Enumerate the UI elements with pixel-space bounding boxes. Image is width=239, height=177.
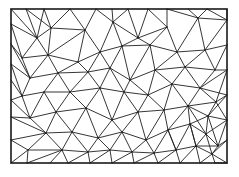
mesh-edge [177, 50, 205, 52]
mesh-edge [100, 52, 110, 68]
mesh-edge [11, 64, 22, 96]
mesh-edge [70, 9, 85, 30]
mesh-edge [44, 92, 56, 112]
mesh-edge [206, 116, 208, 134]
mesh-edge [22, 78, 30, 96]
mesh-edge [168, 124, 190, 130]
mesh-edge [56, 112, 72, 132]
mesh-edge [155, 67, 185, 70]
mesh-edge [196, 146, 200, 163]
mesh-edge [28, 133, 46, 150]
mesh-edge [113, 22, 138, 38]
mesh-edge [138, 95, 148, 112]
mesh-edge [150, 45, 155, 70]
mesh-edge [27, 150, 28, 163]
mesh-edge [98, 138, 110, 150]
mesh-edge [11, 133, 46, 140]
mesh-edge [176, 124, 190, 150]
mesh-edge [176, 150, 180, 163]
mesh-edge [150, 27, 167, 45]
mesh-edge [146, 140, 154, 153]
mesh-edge [46, 112, 56, 133]
mesh-edge [148, 70, 155, 95]
mesh-edge [200, 70, 227, 88]
mesh-edge [124, 80, 130, 92]
mesh-edge [112, 9, 113, 22]
mesh-edge [132, 140, 146, 152]
mesh-edge [122, 46, 130, 80]
mesh-edge [130, 45, 150, 80]
mesh-edge [155, 70, 172, 84]
mesh-edge [110, 68, 124, 92]
mesh-edge [11, 117, 46, 133]
mesh-edge [132, 152, 154, 153]
mesh-edge [100, 68, 110, 88]
mesh-edge [96, 9, 113, 22]
mesh-edge [22, 55, 48, 58]
mesh-edge [112, 92, 124, 120]
mesh-edge [58, 72, 88, 73]
mesh-edge [62, 150, 88, 152]
mesh-edge [172, 84, 200, 88]
mesh-edge [88, 72, 100, 88]
mesh-edge [132, 152, 134, 163]
mesh-edge [130, 70, 155, 80]
mesh-edge [112, 152, 132, 163]
mesh-edge [200, 154, 212, 163]
mesh-edge [100, 46, 122, 52]
mesh-edge [188, 88, 200, 106]
triangulated-mesh-diagram [0, 0, 239, 177]
mesh-edge [58, 73, 70, 92]
mesh-edge [167, 27, 177, 52]
mesh-edge [30, 55, 48, 78]
mesh-edge [85, 30, 100, 52]
mesh-edge [11, 9, 37, 38]
mesh-edge [206, 120, 227, 134]
mesh-edge [208, 116, 227, 120]
mesh-edge [168, 130, 176, 150]
mesh-edge [22, 38, 37, 58]
mesh-edge [164, 110, 168, 130]
mesh-edge [62, 132, 72, 150]
mesh-edge [124, 92, 138, 112]
mesh-edge [113, 22, 122, 46]
mesh-edge [48, 55, 78, 62]
mesh-edge [30, 118, 46, 133]
mesh-edge [68, 152, 88, 163]
mesh-edge [198, 18, 227, 20]
mesh-edge [78, 62, 88, 72]
mesh-edge [122, 45, 150, 46]
mesh-edge [88, 138, 98, 152]
mesh-edge [188, 102, 216, 106]
mesh-edge [11, 140, 28, 150]
mesh-edge [30, 92, 44, 118]
mesh-edge [100, 22, 113, 52]
mesh-edge [138, 27, 167, 38]
mesh-edge [22, 92, 44, 96]
mesh-edge [30, 73, 58, 78]
mesh-edge [128, 9, 138, 38]
mesh-edge [138, 112, 146, 140]
mesh-edge [112, 120, 122, 132]
mesh-edge [185, 67, 200, 88]
mesh-edge [154, 153, 158, 163]
mesh-edge [110, 150, 112, 163]
mesh-edge [198, 18, 205, 50]
mesh-edge [37, 38, 48, 55]
mesh-edge [48, 28, 51, 55]
mesh-edge [172, 84, 188, 106]
mesh-edge [205, 50, 215, 70]
mesh-edge [148, 9, 167, 27]
mesh-edge [216, 102, 227, 120]
mesh-edge [86, 88, 100, 108]
mesh-edge [72, 108, 86, 132]
mesh-edge [218, 120, 227, 146]
mesh-edge [110, 150, 132, 152]
mesh-edge [172, 67, 185, 84]
mesh-edge [11, 80, 22, 96]
mesh-edge [196, 134, 206, 146]
mesh-edge [110, 46, 122, 68]
mesh-edge [138, 9, 148, 38]
mesh-edge [185, 67, 215, 70]
mesh-edge [164, 106, 188, 110]
